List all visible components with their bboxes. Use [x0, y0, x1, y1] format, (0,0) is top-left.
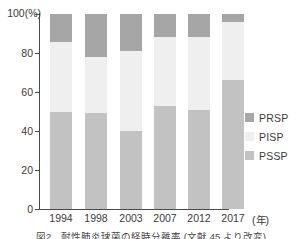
bar-segment-pisp-2017 [222, 22, 244, 81]
legend-label-pisp: PISP [259, 131, 284, 143]
legend-label-prsp: PRSP [259, 112, 288, 124]
y-tick-60 [35, 92, 39, 93]
x-axis-label-1998: 1998 [76, 212, 116, 224]
y-axis-label-80: 80 [0, 47, 33, 59]
bar-segment-pisp-2007 [154, 37, 176, 105]
legend-item-pisp: PISP [245, 127, 288, 146]
legend-swatch-prsp [245, 113, 254, 122]
y-axis-unit-label: 100(%) [0, 7, 41, 19]
figure-caption: 図2 耐性肺炎球菌の経時分離率 (文献 45 より改変) [0, 229, 302, 239]
chart-figure: 100(%) 80 60 40 20 0 1994 1998 2003 2007… [0, 0, 302, 239]
bar-group-1998 [85, 14, 107, 209]
legend-label-pssp: PSSP [259, 150, 288, 162]
bar-segment-pssp-2003 [120, 131, 142, 209]
bar-segment-pisp-1994 [50, 42, 72, 112]
bar-group-1994 [50, 14, 72, 209]
bar-group-2017 [222, 14, 244, 209]
legend-item-pssp: PSSP [245, 146, 288, 165]
bar-segment-pisp-1998 [85, 57, 107, 114]
bar-segment-pssp-1994 [50, 112, 72, 209]
x-axis-label-1994: 1994 [41, 212, 81, 224]
bar-group-2003 [120, 14, 142, 209]
y-axis-label-60: 60 [0, 86, 33, 98]
bar-segment-pisp-2003 [120, 51, 142, 131]
bar-segment-pssp-2017 [222, 80, 244, 209]
bar-segment-pssp-2007 [154, 106, 176, 209]
x-axis-label-2017: 2017 [213, 212, 253, 224]
legend-swatch-pssp [245, 151, 254, 160]
bar-segment-prsp-2007 [154, 14, 176, 37]
bar-segment-pisp-2012 [188, 37, 210, 109]
plot-area [40, 14, 228, 209]
bar-segment-prsp-2003 [120, 14, 142, 51]
y-axis-top-value: 100 [7, 7, 25, 19]
bar-group-2007 [154, 14, 176, 209]
bar-segment-prsp-2012 [188, 14, 210, 37]
legend-swatch-pisp [245, 132, 254, 141]
chart-legend: PRSP PISP PSSP [245, 108, 288, 165]
y-tick-100 [35, 14, 39, 15]
x-axis-unit-text: 年 [256, 214, 266, 226]
bar-segment-prsp-1994 [50, 14, 72, 42]
y-axis-label-0: 0 [0, 203, 33, 215]
y-tick-20 [35, 170, 39, 171]
legend-item-prsp: PRSP [245, 108, 288, 127]
y-tick-40 [35, 131, 39, 132]
bar-segment-pssp-2012 [188, 110, 210, 209]
bar-segment-prsp-1998 [85, 14, 107, 57]
bar-segment-pssp-1998 [85, 113, 107, 209]
y-tick-0 [35, 209, 39, 210]
y-axis-label-40: 40 [0, 125, 33, 137]
bar-segment-prsp-2017 [222, 14, 244, 22]
y-axis-label-20: 20 [0, 164, 33, 176]
bar-group-2012 [188, 14, 210, 209]
x-axis-line [39, 209, 229, 210]
x-axis-unit-label: (年) [252, 212, 269, 227]
y-tick-80 [35, 53, 39, 54]
